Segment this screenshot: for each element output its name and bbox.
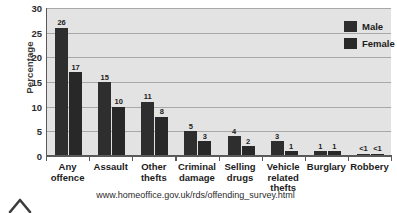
- x-axis-category-label: Burglary: [305, 162, 348, 173]
- y-axis-tick-20: 20: [20, 52, 42, 63]
- x-axis-tick: [89, 155, 90, 161]
- bar-group: <1<1: [357, 8, 384, 156]
- plot-area: Male Female 2617151011853423111<1<1: [46, 8, 391, 156]
- bar-value-label: 4: [232, 127, 236, 136]
- x-axis-tick: [219, 155, 220, 161]
- x-axis-tick: [262, 155, 263, 161]
- y-axis-tick-5: 5: [20, 126, 42, 137]
- y-axis-tick-25: 25: [20, 27, 42, 38]
- bar-group: 31: [271, 8, 298, 156]
- bar-value-label: 3: [203, 132, 207, 141]
- x-axis-category-label: Sellingdrugs: [219, 162, 262, 183]
- y-axis-tick-30: 30: [20, 3, 42, 14]
- bar-value-label: 1: [332, 142, 336, 151]
- bar-male: 3: [271, 141, 284, 156]
- bar-value-label: <1: [359, 144, 368, 153]
- y-axis-tick-15: 15: [20, 77, 42, 88]
- x-axis-tick: [46, 155, 47, 161]
- bar-male: 15: [98, 82, 111, 156]
- x-axis-tick: [391, 155, 392, 161]
- x-axis-category-label: Robbery: [348, 162, 391, 173]
- bar-male: 4: [228, 136, 241, 156]
- bar-value-label: 5: [189, 122, 193, 131]
- bar-group: 53: [184, 8, 211, 156]
- y-axis-tick-10: 10: [20, 101, 42, 112]
- x-axis-tick: [175, 155, 176, 161]
- chevron-up-icon: [8, 196, 42, 213]
- x-axis-category-label: Anyoffence: [46, 162, 89, 183]
- bar-group: 118: [141, 8, 168, 156]
- x-axis-category-label: Assault: [89, 162, 132, 173]
- x-axis-category-label: Vehiclerelatedthefts: [262, 162, 305, 194]
- x-axis-category-label: Otherthefts: [132, 162, 175, 183]
- bar-value-label: 26: [57, 18, 65, 27]
- bar-value-label: 8: [160, 107, 164, 116]
- bar-value-label: 1: [318, 142, 322, 151]
- bar-value-label: 1: [289, 142, 293, 151]
- offending-survey-bar-chart: Percentage 051015202530 Male Female 2617…: [0, 0, 397, 213]
- x-axis-category-label: Criminaldamage: [175, 162, 218, 183]
- bar-male: 26: [55, 28, 68, 156]
- bar-value-label: 17: [71, 63, 79, 72]
- legend-swatch-male: [344, 21, 357, 32]
- x-axis-tick: [132, 155, 133, 161]
- bar-value-label: 2: [246, 137, 250, 146]
- bar-group: 1510: [98, 8, 125, 156]
- legend-swatch-female: [344, 38, 357, 49]
- x-axis-tick: [305, 155, 306, 161]
- x-axis-tick: [348, 155, 349, 161]
- bar-male: 5: [184, 131, 197, 156]
- bar-female: 17: [69, 72, 82, 156]
- bar-female: 3: [198, 141, 211, 156]
- bar-group: 42: [228, 8, 255, 156]
- bar-value-label: 11: [144, 92, 152, 101]
- bar-value-label: 3: [275, 132, 279, 141]
- bar-group: 11: [314, 8, 341, 156]
- bar-value-label: <1: [373, 144, 382, 153]
- bar-value-label: 15: [101, 73, 109, 82]
- y-axis-tick-0: 0: [20, 151, 42, 162]
- bar-female: 10: [112, 107, 125, 156]
- bar-value-label: 10: [115, 97, 123, 106]
- source-url: www.homeoffice.gov.uk/rds/offending_surv…: [0, 190, 397, 200]
- bar-male: 11: [141, 102, 154, 156]
- y-axis-tick-labels: 051015202530: [20, 8, 42, 156]
- bar-group: 2617: [55, 8, 82, 156]
- bar-female: 8: [155, 117, 168, 156]
